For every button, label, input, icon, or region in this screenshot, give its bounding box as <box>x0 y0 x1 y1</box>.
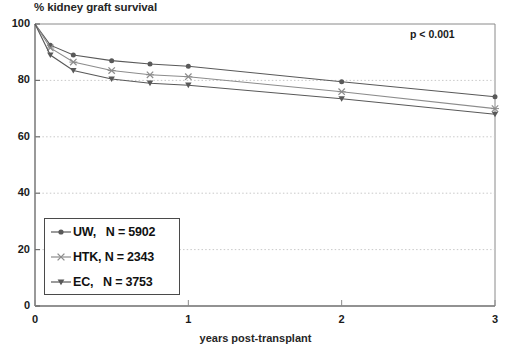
cross-star-icon <box>49 250 73 264</box>
legend-label-uw: UW, N = 5902 <box>73 225 155 239</box>
x-axis-ticks <box>35 300 495 306</box>
legend-label-htk: HTK, N = 2343 <box>73 250 154 264</box>
x-tick-label: 1 <box>176 313 200 325</box>
x-tick-label: 2 <box>330 313 354 325</box>
x-tick-label: 3 <box>483 313 507 325</box>
chart-title: % kidney graft survival <box>34 1 157 13</box>
y-tick-label: 60 <box>0 130 30 142</box>
legend: UW, N = 5902 HTK, N = 2343 EC, N = 3753 <box>44 218 180 295</box>
filled-triangle-down-icon <box>49 275 73 289</box>
y-tick-label: 40 <box>0 186 30 198</box>
y-tick-label: 100 <box>0 17 30 29</box>
chart-container: % kidney graft survival p < 0.001 years … <box>0 0 511 355</box>
y-tick-label: 0 <box>0 299 30 311</box>
p-value-annotation: p < 0.001 <box>410 28 455 40</box>
legend-item-uw: UW, N = 5902 <box>45 219 179 244</box>
survival-curve-plot <box>0 0 511 355</box>
y-axis-ticks <box>35 24 40 306</box>
x-tick-label: 0 <box>23 313 47 325</box>
x-axis-title: years post-transplant <box>0 332 511 344</box>
y-tick-label: 80 <box>0 73 30 85</box>
y-tick-label: 20 <box>0 243 30 255</box>
legend-item-ec: EC, N = 3753 <box>45 270 179 295</box>
filled-circle-icon <box>49 225 73 239</box>
legend-label-ec: EC, N = 3753 <box>73 275 153 289</box>
legend-item-htk: HTK, N = 2343 <box>45 244 179 269</box>
